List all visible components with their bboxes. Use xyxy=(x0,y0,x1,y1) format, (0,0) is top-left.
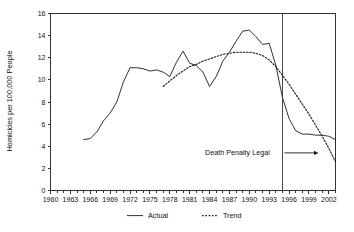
x-tick-label: 1960 xyxy=(43,196,59,203)
x-tick-label: 1990 xyxy=(242,196,258,203)
y-tick-label: 8 xyxy=(42,99,46,106)
x-tick-label: 1987 xyxy=(222,196,238,203)
series-line-trend xyxy=(163,52,335,162)
annotation-label-death-penalty-legal: Death Penalty Legal xyxy=(205,148,270,157)
x-tick-label: 1969 xyxy=(102,196,118,203)
x-tick-label: 1975 xyxy=(142,196,158,203)
series-line-actual xyxy=(84,30,336,140)
x-tick-label: 1966 xyxy=(82,196,98,203)
y-axis-title: Homicides per 100,000 People xyxy=(5,50,14,151)
x-tick-label: 1963 xyxy=(63,196,79,203)
y-tick-label: 12 xyxy=(38,54,46,61)
y-tick-label: 2 xyxy=(42,165,46,172)
y-tick-label: 10 xyxy=(38,76,46,83)
homicide-rate-line-chart: 0246810121416 19601963196619691972197519… xyxy=(0,0,354,232)
x-tick-label: 1999 xyxy=(301,196,317,203)
y-tick-label: 0 xyxy=(42,187,46,194)
x-tick-label: 1978 xyxy=(162,196,178,203)
x-tick-label: 1996 xyxy=(281,196,297,203)
plot-frame xyxy=(51,14,336,191)
x-tick-label: 1993 xyxy=(261,196,277,203)
y-tick-label: 4 xyxy=(42,143,46,150)
chart-legend: ActualTrend xyxy=(127,211,242,220)
annotation-arrow-head xyxy=(314,151,319,155)
x-tick-label: 2002 xyxy=(321,196,337,203)
data-series-group xyxy=(84,30,336,162)
y-axis-ticks: 0246810121416 xyxy=(38,10,51,194)
legend-label-trend: Trend xyxy=(223,211,242,220)
x-tick-label: 1972 xyxy=(122,196,138,203)
y-tick-label: 6 xyxy=(42,121,46,128)
legend-label-actual: Actual xyxy=(148,211,168,220)
y-tick-label: 14 xyxy=(38,32,46,39)
x-tick-label: 1981 xyxy=(182,196,198,203)
y-tick-label: 16 xyxy=(38,10,46,17)
chart-figure: 0246810121416 19601963196619691972197519… xyxy=(0,0,354,232)
x-tick-label: 1984 xyxy=(202,196,218,203)
